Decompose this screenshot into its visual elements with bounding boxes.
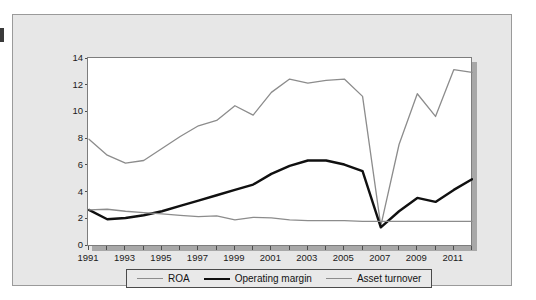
x-tick-mark <box>325 246 326 250</box>
x-tick-label: 1999 <box>223 252 244 263</box>
x-tick-mark <box>197 246 198 250</box>
x-tick-label: 2003 <box>296 252 317 263</box>
x-tick-mark <box>453 246 454 250</box>
legend-item[interactable]: ROA <box>137 273 190 284</box>
x-tick-mark <box>216 246 217 250</box>
x-tick-mark <box>143 246 144 250</box>
x-tick-label: 2007 <box>369 252 390 263</box>
x-tick-mark <box>124 246 125 250</box>
legend-line-swatch <box>204 278 230 280</box>
page-edge-marker <box>0 28 4 42</box>
legend-item[interactable]: Asset turnover <box>326 273 421 284</box>
x-tick-mark <box>234 246 235 250</box>
x-tick-label: 2009 <box>406 252 427 263</box>
x-tick-label: 2005 <box>333 252 354 263</box>
x-tick-label: 1993 <box>114 252 135 263</box>
legend-line-swatch <box>137 278 163 279</box>
x-tick-label: 2011 <box>443 252 463 263</box>
x-tick-mark <box>88 246 89 250</box>
legend-label: ROA <box>168 273 190 284</box>
x-tick-mark <box>343 246 344 250</box>
legend-line-swatch <box>326 278 352 279</box>
x-tick-mark <box>179 246 180 250</box>
x-tick-mark <box>435 246 436 250</box>
x-tick-label: 1997 <box>187 252 208 263</box>
chart-legend: ROAOperating marginAsset turnover <box>126 269 432 288</box>
x-tick-mark <box>161 246 162 250</box>
x-tick-mark <box>270 246 271 250</box>
x-tick-mark <box>106 246 107 250</box>
x-tick-mark <box>252 246 253 250</box>
legend-item[interactable]: Operating margin <box>204 273 312 284</box>
x-tick-mark <box>380 246 381 250</box>
x-tick-label: 1991 <box>77 252 98 263</box>
legend-label: Asset turnover <box>357 273 421 284</box>
x-tick-mark <box>398 246 399 250</box>
x-axis: 1991199319951997199920012003200520072009… <box>13 15 513 287</box>
x-tick-mark <box>307 246 308 250</box>
x-tick-mark <box>289 246 290 250</box>
x-tick-mark <box>416 246 417 250</box>
x-tick-label: 2001 <box>260 252 281 263</box>
figure-card: 02468101214 1991199319951997199920012003… <box>12 14 512 286</box>
x-tick-mark <box>471 246 472 250</box>
legend-label: Operating margin <box>235 273 312 284</box>
x-tick-label: 1995 <box>150 252 171 263</box>
x-tick-mark <box>362 246 363 250</box>
